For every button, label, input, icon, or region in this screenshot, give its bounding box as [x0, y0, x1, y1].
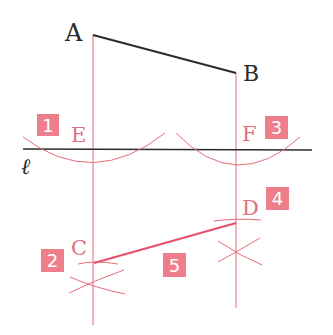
label-b: B [243, 61, 259, 86]
cross-arc-d-1 [218, 238, 260, 262]
step-box-3: 3 [265, 116, 288, 139]
label-c: C [71, 236, 87, 260]
step-box-5: 5 [163, 253, 186, 277]
svg-text:3: 3 [271, 117, 282, 138]
svg-text:2: 2 [47, 250, 58, 271]
line-l [23, 149, 312, 150]
step-box-1: 1 [37, 114, 59, 136]
step-box-4: 4 [266, 187, 289, 210]
label-a: A [64, 19, 83, 47]
svg-text:4: 4 [272, 188, 283, 209]
arc-step-1 [23, 133, 165, 163]
segment-ab [93, 35, 236, 73]
svg-text:1: 1 [42, 115, 53, 136]
label-line-l: ℓ [21, 154, 31, 179]
label-f: F [242, 122, 257, 146]
construction-diagram: A B E F C D ℓ 1 2 3 4 5 [0, 0, 333, 335]
svg-text:5: 5 [169, 255, 180, 276]
cross-arc-d-2 [218, 241, 262, 265]
cross-arc-c-1 [69, 270, 124, 293]
label-d: D [242, 196, 259, 220]
label-e: E [71, 123, 86, 147]
step-box-2: 2 [41, 249, 64, 272]
